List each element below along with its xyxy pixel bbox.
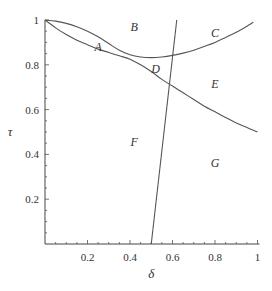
steep-line: [151, 20, 177, 244]
region-label-d: D: [150, 62, 160, 76]
region-label-a: A: [93, 40, 102, 54]
y-tick-label: 0.4: [25, 148, 39, 160]
region-labels: ABCDEFG: [93, 20, 220, 171]
y-axis-label: τ: [8, 124, 14, 139]
region-label-c: C: [211, 26, 220, 40]
region-label-e: E: [210, 77, 219, 91]
x-tick-label: 0.2: [81, 251, 95, 263]
x-axis-label: δ: [148, 266, 155, 281]
series: [45, 20, 258, 244]
y-tick-label: 0.8: [25, 59, 39, 71]
y-tick-label: 0.6: [25, 104, 39, 116]
y-tick-label: 0.2: [25, 193, 39, 205]
region-label-f: F: [130, 135, 139, 149]
region-label-g: G: [211, 156, 220, 170]
x-tick-label: 0.4: [123, 251, 137, 263]
x-tick-label: 0.6: [166, 251, 180, 263]
region-diagram-chart: 0.20.40.60.810.20.40.60.81 ABCDEFG δ τ: [0, 0, 272, 291]
region-label-b: B: [131, 20, 139, 34]
x-tick-label: 1: [255, 251, 261, 263]
axes: [45, 20, 260, 244]
upper-curve: [45, 20, 253, 58]
x-tick-label: 0.8: [208, 251, 222, 263]
y-tick-label: 1: [34, 14, 40, 26]
ticks: 0.20.40.60.810.20.40.60.81: [25, 14, 260, 263]
